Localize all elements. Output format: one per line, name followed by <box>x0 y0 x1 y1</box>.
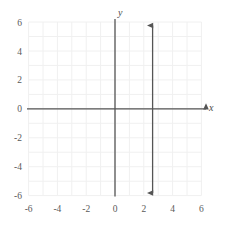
y-tick-label-2: 2 <box>4 76 22 86</box>
y-tick-label-6: 6 <box>4 19 22 29</box>
x-tick-label-0: 0 <box>105 205 125 215</box>
x-tick-label-6: 6 <box>191 205 211 215</box>
x-tick-label-neg2: -2 <box>76 205 96 215</box>
x-tick-label-neg4: -4 <box>47 205 67 215</box>
x-tick-label-neg6: -6 <box>19 205 39 215</box>
y-tick-label-0: 0 <box>4 105 22 115</box>
graph-canvas <box>0 0 227 226</box>
x-axis-label: x <box>209 103 213 113</box>
y-tick-label-4: 4 <box>4 48 22 58</box>
x-tick-label-2: 2 <box>134 205 154 215</box>
x-tick-label-4: 4 <box>163 205 183 215</box>
y-tick-label-neg2: -2 <box>1 134 22 144</box>
coordinate-plane-figure: 6 4 2 0 -2 -4 -6 -6 -4 -2 0 2 4 6 y x <box>0 0 227 226</box>
y-tick-label-neg4: -4 <box>1 163 22 173</box>
y-tick-label-neg6: -6 <box>1 192 22 202</box>
y-axis-label: y <box>118 8 122 18</box>
